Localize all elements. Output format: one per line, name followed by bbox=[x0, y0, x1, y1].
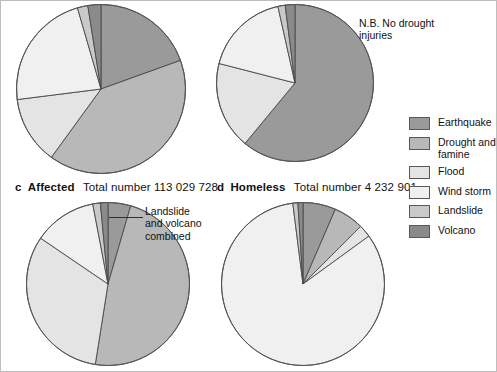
legend-label-volcano: Volcano bbox=[438, 224, 475, 236]
legend-item-wind-storm: Wind storm bbox=[409, 186, 497, 199]
pie-d-svg bbox=[220, 201, 386, 367]
pie-a-svg bbox=[15, 3, 187, 175]
legend-item-flood: Flood bbox=[409, 166, 497, 179]
pie-chart-d bbox=[220, 201, 386, 367]
legend-item-earthquake: Earthquake bbox=[409, 117, 497, 130]
pie-b-svg bbox=[215, 3, 375, 163]
legend-swatch-earthquake bbox=[409, 117, 430, 130]
legend-swatch-landslide bbox=[409, 205, 430, 218]
legend-item-landslide: Landslide bbox=[409, 205, 497, 218]
legend-swatch-drought-and-famine bbox=[409, 137, 430, 150]
legend-swatch-wind-storm bbox=[409, 186, 430, 199]
legend-label-flood: Flood bbox=[438, 165, 464, 177]
annotation-landslide-volcano-combined: Landslide and volcano combined bbox=[145, 205, 202, 242]
legend-label-earthquake: Earthquake bbox=[438, 116, 492, 128]
caption-c: c Affected Total number 113 029 728 bbox=[15, 181, 218, 193]
pie-b-slices bbox=[217, 5, 374, 162]
pie-d-slices bbox=[222, 203, 385, 366]
caption-d-kind: Homeless bbox=[230, 181, 285, 193]
pie-chart-b bbox=[215, 3, 375, 163]
pie-chart-a bbox=[15, 3, 187, 175]
legend-item-volcano: Volcano bbox=[409, 225, 497, 238]
leader-line-landslide-volcano bbox=[109, 217, 143, 218]
caption-c-total: Total number 113 029 728 bbox=[83, 181, 218, 193]
legend-label-wind-storm: Wind storm bbox=[438, 185, 491, 197]
legend-label-drought-and-famine: Drought and famine bbox=[438, 136, 496, 160]
caption-d-letter: d bbox=[217, 181, 224, 193]
legend-label-landslide: Landslide bbox=[438, 204, 483, 216]
legend-swatch-volcano bbox=[409, 225, 430, 238]
caption-c-kind: Affected bbox=[28, 181, 75, 193]
legend-item-drought-and-famine: Drought and famine bbox=[409, 137, 497, 160]
figure-canvas: N.B. No drought injuries c Affected Tota… bbox=[1, 1, 496, 371]
annotation-no-drought-injuries: N.B. No drought injuries bbox=[359, 17, 434, 42]
caption-d: d Homeless Total number 4 232 901 bbox=[217, 181, 417, 193]
caption-d-total: Total number 4 232 901 bbox=[294, 181, 417, 193]
pie-a-slices bbox=[16, 5, 185, 174]
caption-c-letter: c bbox=[15, 181, 22, 193]
legend-swatch-flood bbox=[409, 166, 430, 179]
legend: Earthquake Drought and famine Flood Wind… bbox=[409, 117, 497, 244]
